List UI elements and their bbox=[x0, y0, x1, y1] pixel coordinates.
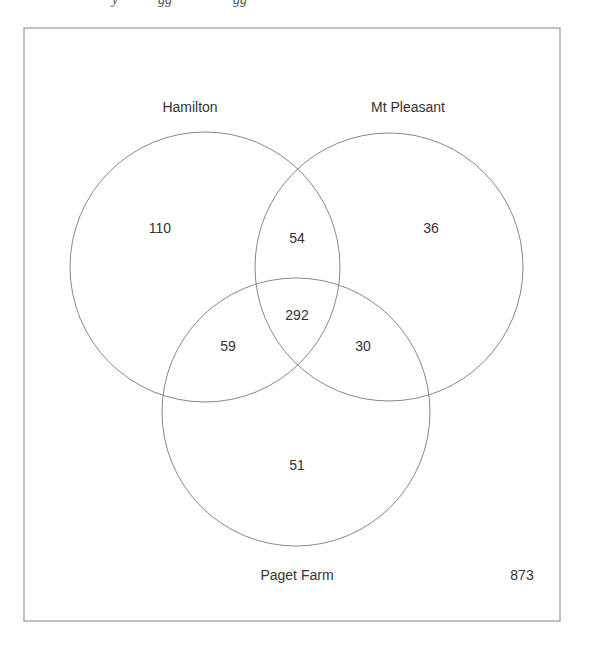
count-outside: 873 bbox=[510, 567, 534, 583]
hamilton-label: Hamilton bbox=[162, 99, 217, 115]
venn-diagram: Hamilton Mt Pleasant Paget Farm 110 54 3… bbox=[0, 0, 593, 646]
count-hamilton-paget: 59 bbox=[220, 338, 236, 354]
count-paget-only: 51 bbox=[289, 457, 305, 473]
count-all-three: 292 bbox=[285, 307, 309, 323]
hamilton-circle bbox=[70, 132, 340, 402]
count-hamilton-only: 110 bbox=[149, 220, 172, 236]
mt-pleasant-label: Mt Pleasant bbox=[371, 99, 445, 115]
mt-pleasant-circle bbox=[255, 133, 523, 401]
paget-farm-label: Paget Farm bbox=[260, 567, 333, 583]
count-mtpleasant-only: 36 bbox=[423, 220, 439, 236]
count-hamilton-mtpleasant: 54 bbox=[289, 230, 305, 246]
count-mtpleasant-paget: 30 bbox=[355, 338, 371, 354]
diagram-frame bbox=[24, 28, 560, 621]
